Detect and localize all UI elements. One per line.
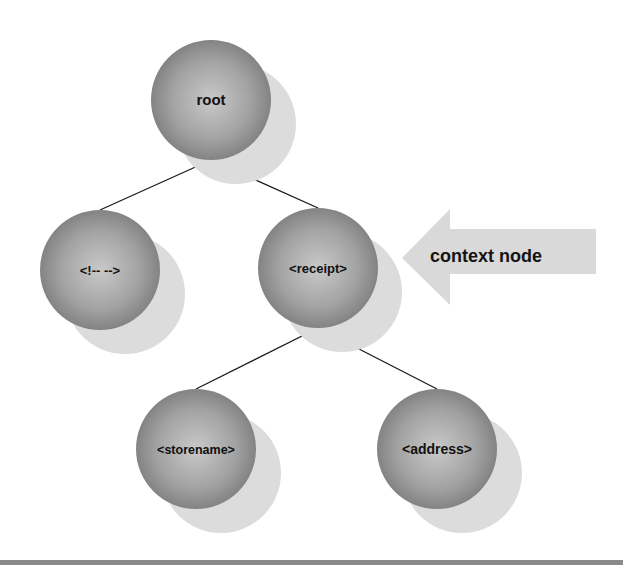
- node-root-label: root: [196, 91, 225, 108]
- xml-tree-diagram: root <!-- --> <receipt> <storename> <add…: [0, 0, 623, 565]
- node-storename-label: <storename>: [157, 443, 235, 457]
- node-receipt: <receipt>: [258, 208, 378, 328]
- node-root: root: [151, 40, 271, 160]
- node-comment-label: <!-- -->: [80, 263, 121, 278]
- context-node-annotation: context node: [402, 209, 596, 305]
- bottom-rule: [0, 560, 623, 565]
- node-comment: <!-- -->: [40, 210, 160, 330]
- node-address-label: <address>: [402, 441, 472, 457]
- node-receipt-label: <receipt>: [289, 261, 347, 276]
- node-address: <address>: [377, 389, 497, 509]
- node-storename: <storename>: [136, 389, 256, 509]
- edge-receipt-storename: [196, 328, 318, 389]
- context-node-label: context node: [430, 246, 542, 266]
- edge-root-comment: [100, 160, 211, 210]
